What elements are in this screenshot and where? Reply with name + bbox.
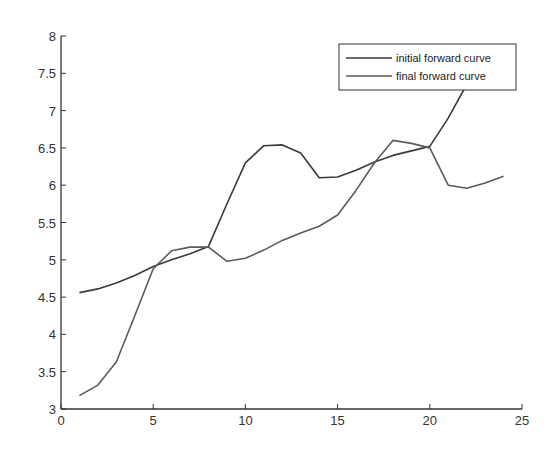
y-tick-label: 4 bbox=[49, 327, 56, 342]
plot-area: 33.544.555.566.577.58 0510152025 initial… bbox=[38, 29, 529, 428]
x-tick-label: 5 bbox=[150, 413, 157, 428]
x-tick-label: 25 bbox=[515, 413, 529, 428]
y-tick-label: 7 bbox=[49, 104, 56, 119]
legend-label-final: final forward curve bbox=[396, 70, 486, 82]
x-tick-label: 0 bbox=[57, 413, 64, 428]
y-tick-label: 5.5 bbox=[38, 216, 56, 231]
x-tick-label: 10 bbox=[238, 413, 252, 428]
x-axis-ticks: 0510152025 bbox=[57, 404, 529, 428]
x-tick-label: 15 bbox=[330, 413, 344, 428]
y-tick-label: 3.5 bbox=[38, 365, 56, 380]
line-chart: 33.544.555.566.577.58 0510152025 initial… bbox=[0, 0, 560, 451]
legend: initial forward curve final forward curv… bbox=[339, 44, 516, 90]
y-tick-label: 8 bbox=[49, 29, 56, 44]
series-line-final bbox=[79, 140, 503, 395]
y-axis-ticks: 33.544.555.566.577.58 bbox=[38, 29, 66, 417]
y-tick-label: 7.5 bbox=[38, 66, 56, 81]
y-tick-label: 3 bbox=[49, 402, 56, 417]
legend-box bbox=[339, 44, 516, 90]
y-tick-label: 6.5 bbox=[38, 141, 56, 156]
y-tick-label: 4.5 bbox=[38, 290, 56, 305]
y-tick-label: 5 bbox=[49, 253, 56, 268]
y-tick-label: 6 bbox=[49, 178, 56, 193]
series-layer bbox=[79, 51, 503, 396]
legend-label-initial: initial forward curve bbox=[396, 52, 491, 64]
x-tick-label: 20 bbox=[423, 413, 437, 428]
